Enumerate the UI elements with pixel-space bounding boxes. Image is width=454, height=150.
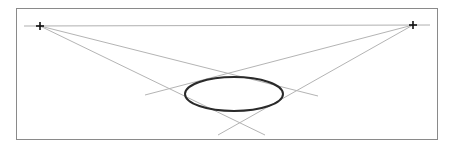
ellipse-shape[interactable]	[185, 77, 283, 111]
construction-line	[218, 25, 413, 135]
vp-left-crosshair-icon[interactable]	[36, 22, 44, 30]
construction-line	[40, 26, 265, 135]
vp-right-crosshair-icon[interactable]	[409, 21, 417, 29]
construction-lines	[40, 25, 413, 135]
horizon-line	[24, 25, 430, 26]
perspective-drawing-canvas	[0, 0, 454, 150]
construction-line	[145, 25, 413, 95]
